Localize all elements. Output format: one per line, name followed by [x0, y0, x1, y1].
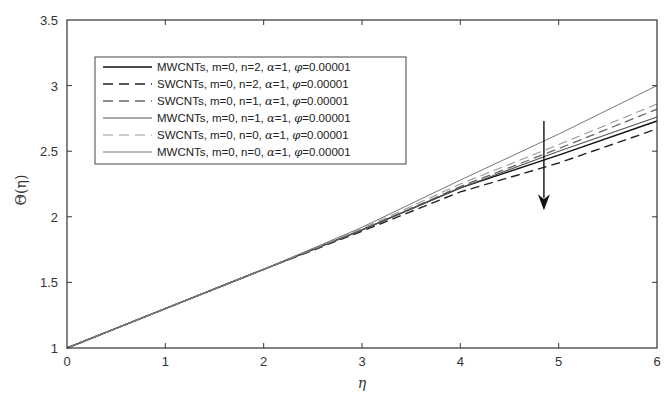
y-axis-label: Θ(η) — [13, 175, 29, 206]
legend-label: SWCNTs, m=0, n=1, α=1, φ=0.00001 — [157, 94, 349, 108]
chart: 012345611.522.533.5 η Θ(η) MWCNTs, m=0, … — [0, 0, 671, 409]
y-tick-label: 2 — [51, 210, 58, 225]
x-tick-label: 1 — [162, 354, 169, 369]
y-tick-label: 1 — [51, 341, 58, 356]
y-tick-label: 3.5 — [40, 13, 58, 28]
x-tick-label: 5 — [555, 354, 562, 369]
x-tick-label: 6 — [653, 354, 660, 369]
legend-label: MWCNTs, m=0, n=2, α=1, φ=0.00001 — [157, 60, 351, 74]
x-tick-label: 2 — [260, 354, 267, 369]
legend-label: MWCNTs, m=0, n=1, α=1, φ=0.00001 — [157, 111, 351, 125]
legend: MWCNTs, m=0, n=2, α=1, φ=0.00001SWCNTs, … — [95, 57, 406, 164]
x-tick-label: 3 — [358, 354, 365, 369]
y-tick-label: 3 — [51, 79, 58, 94]
x-tick-label: 4 — [457, 354, 464, 369]
y-tick-label: 2.5 — [40, 144, 58, 159]
trend-arrow — [538, 121, 550, 210]
x-tick-label: 0 — [63, 354, 70, 369]
legend-label: MWCNTs, m=0, n=0, α=1, φ=0.00001 — [157, 145, 351, 159]
y-tick-label: 1.5 — [40, 275, 58, 290]
x-axis-label: η — [358, 375, 367, 391]
legend-label: SWCNTs, m=0, n=2, α=1, φ=0.00001 — [157, 77, 349, 91]
legend-label: SWCNTs, m=0, n=0, α=1, φ=0.00001 — [157, 128, 349, 142]
